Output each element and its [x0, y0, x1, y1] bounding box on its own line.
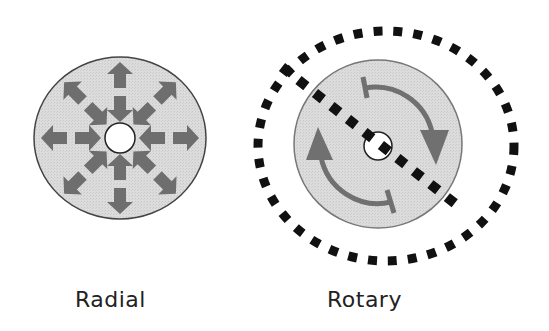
label-radial: Radial [75, 287, 146, 312]
radial-rotary-diagram [0, 0, 549, 331]
radial-panel [34, 57, 206, 219]
radial-center-hole [105, 123, 135, 153]
rotary-panel [258, 31, 514, 261]
label-rotary: Rotary [327, 287, 402, 312]
